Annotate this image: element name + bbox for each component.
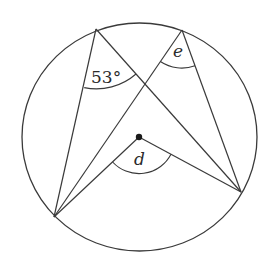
chord-b-d bbox=[182, 30, 241, 192]
chord-b-c bbox=[54, 30, 182, 217]
radius-o-d bbox=[139, 137, 241, 192]
circle-theorem-diagram: 53° e d bbox=[0, 0, 269, 254]
chord-a-c bbox=[54, 29, 96, 217]
center-point bbox=[136, 134, 142, 140]
angle-label-b: e bbox=[173, 41, 183, 61]
radius-o-c bbox=[54, 137, 139, 217]
angle-label-o: d bbox=[134, 149, 145, 169]
angle-arc-b bbox=[160, 62, 195, 69]
angle-label-a: 53° bbox=[91, 67, 121, 87]
